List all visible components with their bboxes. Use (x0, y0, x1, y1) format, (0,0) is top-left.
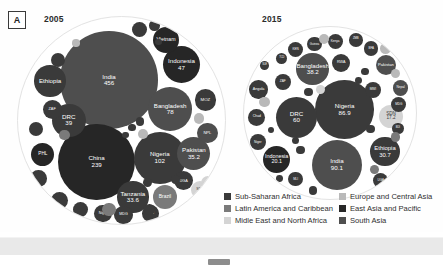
bubble-mdg[interactable]: MDG (391, 97, 406, 112)
bubble-rwa[interactable]: RWA (332, 54, 351, 73)
bubble-label: PHL (38, 152, 47, 157)
legend-swatch-icon (339, 193, 346, 200)
legend-column-left: Sub-Saharan AfricaLatin America and Cari… (224, 192, 336, 229)
legend-item-south-asia[interactable]: South Asia (339, 216, 439, 225)
legend-swatch-icon (224, 193, 231, 200)
bubble-unlabeled-28[interactable] (391, 69, 401, 79)
bubble-drc[interactable]: DRC60 (276, 97, 317, 138)
bubble-unlabeled-39[interactable] (155, 39, 162, 46)
legend-label: Latin America and Caribbean (235, 204, 333, 213)
scrollbar-thumb[interactable] (208, 259, 230, 265)
bubble-nepal[interactable]: Nepal (393, 80, 409, 96)
bubble-unlabeled-24[interactable] (30, 170, 47, 187)
legend-item-sub-saharan-africa[interactable]: Sub-Saharan Africa (224, 192, 336, 201)
bubble-moz[interactable]: MOZ (195, 89, 217, 111)
bubble-label: RWA (337, 61, 345, 65)
bubble-unlabeled-32[interactable] (194, 113, 205, 124)
legend-item-midle-east-and-north-africa[interactable]: Midle East and North Africa (224, 216, 336, 225)
bubble-unlabeled-37[interactable] (361, 68, 369, 76)
bubble-label: Angola (253, 88, 265, 92)
bubble-unlabeled-39[interactable] (268, 127, 274, 133)
bubble-value: 102 (155, 158, 165, 165)
bubble-unlabeled-33[interactable] (304, 88, 312, 96)
bubble-bangladesh[interactable]: Bangladesh38.2 (296, 53, 329, 86)
bubble-mdg[interactable]: MDG (114, 206, 132, 224)
bubble-chad[interactable]: Chad (248, 109, 265, 126)
bubble-value: 39 (65, 120, 72, 127)
legend-label: Europe and Central Asia (350, 192, 432, 201)
panel-year-2005: 2005 (44, 14, 64, 24)
legend-item-latin-america-and-caribbean[interactable]: Latin America and Caribbean (224, 204, 336, 213)
legend-item-europe-and-central-asia[interactable]: Europe and Central Asia (339, 192, 439, 201)
legend-item-east-asia-and-pacific[interactable]: East Asia and Pacific (339, 204, 439, 213)
bubble-uga[interactable]: UGA (373, 173, 388, 188)
bubble-unlabeled-29[interactable] (259, 97, 269, 107)
legend-swatch-icon (224, 217, 231, 224)
bubble-label: BDI (396, 127, 400, 130)
bubble-unlabeled-34[interactable] (171, 175, 180, 184)
bubble-unlabeled-36[interactable] (136, 117, 144, 125)
bubble-ken[interactable]: KEN (288, 42, 303, 57)
bubble-unlabeled-33[interactable] (72, 39, 79, 46)
bubble-unlabeled-41[interactable] (276, 175, 283, 182)
panel-year-2015: 2015 (262, 14, 282, 24)
bubble-sle[interactable]: SLE (260, 61, 269, 70)
bubble-label: NPL (203, 131, 211, 135)
panel-letter-badge: A (8, 11, 26, 29)
bubble-unlabeled-26[interactable] (73, 202, 88, 217)
bubble-unlabeled-30[interactable] (391, 132, 401, 142)
bubble-kenya[interactable]: Kenya (328, 34, 343, 49)
bubble-npl[interactable]: NPL (197, 123, 218, 144)
bubble-unlabeled-21[interactable] (149, 20, 160, 31)
bubble-phl[interactable]: PHL (31, 143, 54, 166)
bubble-bangladesh[interactable]: Bangladesh78 (148, 87, 191, 130)
bubble-unlabeled-36[interactable] (366, 125, 374, 133)
bubble-india[interactable]: India90.1 (312, 140, 362, 190)
bubble-unlabeled-30[interactable] (201, 176, 215, 190)
window-bottom-band (0, 237, 443, 255)
legend-swatch-icon (224, 205, 231, 212)
bubble-unlabeled-38[interactable] (122, 132, 129, 139)
bubble-unlabeled-27[interactable] (380, 43, 391, 54)
bubble-zmb[interactable]: ZMB (349, 33, 363, 47)
bubble-unlabeled-20[interactable] (132, 22, 147, 37)
bubble-unlabeled-35[interactable] (143, 178, 152, 187)
bubble-unlabeled-29[interactable] (102, 203, 115, 216)
bubble-label: Nepal (396, 86, 404, 89)
bubble-label: Brazil (159, 194, 171, 199)
bubble-brazil[interactable]: Brazil (153, 185, 178, 210)
bubble-value: 33.6 (127, 197, 139, 204)
bubble-label: KEN (292, 48, 298, 51)
bubble-label: ZAF (49, 107, 56, 111)
bubble-label: Guinea (310, 43, 319, 46)
bubble-zaf[interactable]: ZAF (43, 100, 62, 119)
bubble-value: 35.2 (188, 154, 200, 161)
bubble-indonesia[interactable]: Indonesia20.1 (263, 146, 290, 173)
legend-swatch-icon (339, 217, 346, 224)
bubble-unlabeled-34[interactable] (296, 146, 305, 155)
bubble-label: MOZ (201, 98, 211, 103)
bubble-bfa[interactable]: BFA (364, 41, 378, 55)
legend-label: East Asia and Pacific (350, 204, 421, 213)
bubble-mwi[interactable]: MWI (365, 82, 381, 98)
bubble-tcd[interactable]: TCD (276, 53, 287, 64)
legend-column-right: Europe and Central AsiaEast Asia and Pac… (339, 192, 439, 229)
bubble-value: 47 (178, 65, 185, 72)
bubble-unlabeled-25[interactable] (51, 192, 68, 209)
bubble-niger[interactable]: Niger (250, 134, 266, 150)
figure-canvas: A 2005 2015 India456China239Nigeria102Ba… (0, 0, 443, 232)
figure-screenshot: A 2005 2015 India456China239Nigeria102Ba… (0, 0, 443, 268)
bubble-value: 60 (293, 117, 300, 124)
bubble-unlabeled-37[interactable] (128, 124, 135, 131)
bubble-ethiopia[interactable]: Ethiopia (34, 65, 65, 96)
bubble-label: TCD (279, 57, 284, 60)
bubble-mli[interactable]: MLI (288, 172, 302, 186)
bubble-zaf[interactable]: ZAF (275, 74, 291, 90)
bubble-unlabeled-38[interactable] (355, 77, 362, 84)
bubble-unlabeled-23[interactable] (29, 122, 43, 136)
bubble-unlabeled-35[interactable] (292, 137, 300, 145)
bubble-label: Niger (254, 141, 262, 144)
bubble-unlabeled-28[interactable] (59, 130, 70, 141)
bubble-value: 90.1 (331, 165, 343, 172)
bubble-unlabeled-27[interactable] (144, 204, 155, 215)
